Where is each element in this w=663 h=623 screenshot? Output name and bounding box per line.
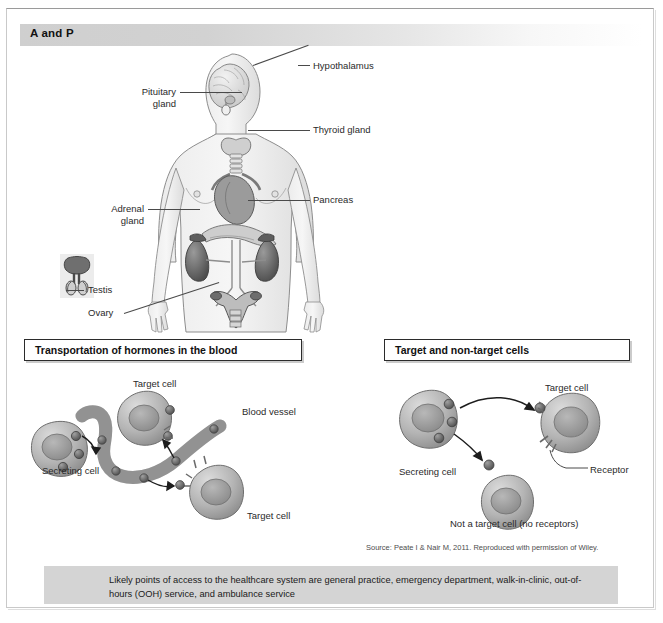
panel-header-target-cells: Target and non-target cells <box>384 339 630 361</box>
label-pituitary-gland-line2: gland <box>96 98 176 110</box>
section-header-bar <box>20 24 642 46</box>
label-target-cell-top: Target cell <box>133 378 176 390</box>
leader-pituitary <box>180 92 242 93</box>
hormone-transport-svg <box>24 368 334 528</box>
page-title: A and P <box>30 27 74 39</box>
target-cell-bottom-shape <box>176 456 244 519</box>
label-thyroid-gland: Thyroid gland <box>313 124 371 136</box>
label-ovary: Ovary <box>88 307 113 319</box>
label-pituitary-gland-line1: Pituitary <box>96 86 176 98</box>
leader-testis <box>66 290 84 291</box>
human-body-diagram <box>150 48 380 333</box>
label-adrenal-gland-line2: gland <box>64 215 144 227</box>
key-points-banner: Likely points of access to the healthcar… <box>44 566 618 604</box>
label-hypothalamus: Hypothalamus <box>313 60 374 72</box>
label-pancreas: Pancreas <box>313 194 353 206</box>
label-non-target-cell: Not a target cell (no receptors) <box>450 518 578 530</box>
label-adrenal-gland-line1: Adrenal <box>64 203 144 215</box>
label-receptor: Receptor <box>590 464 629 476</box>
target-cells-svg <box>392 372 622 532</box>
target-cell-right-shape <box>535 393 600 453</box>
panel-title-transportation: Transportation of hormones in the blood <box>35 344 237 356</box>
leader-adrenal <box>148 209 200 210</box>
target-nontarget-diagram <box>392 372 622 532</box>
page-root: A and P <box>0 0 663 623</box>
label-secreting-cell-left: Secreting cell <box>42 465 99 477</box>
label-secreting-cell-right: Secreting cell <box>399 466 456 478</box>
transportation-diagram <box>24 368 334 528</box>
leader-thyroid <box>248 130 310 131</box>
label-blood-vessel: Blood vessel <box>242 406 296 418</box>
label-testis: Testis <box>88 284 112 296</box>
target-cell-top-shape <box>118 391 175 445</box>
label-target-cell-bottom: Target cell <box>247 510 290 522</box>
source-credit: Source: Peate I & Nair M, 2011. Reproduc… <box>366 543 598 552</box>
leader-hypothalamus-tail <box>298 65 310 66</box>
panel-header-transportation: Transportation of hormones in the blood <box>24 339 302 361</box>
secreting-cell-right-shape <box>400 390 458 448</box>
label-target-cell-right: Target cell <box>545 382 588 394</box>
key-points-text: Likely points of access to the healthcar… <box>109 573 589 601</box>
endocrine-anatomy-figure <box>150 48 380 333</box>
panel-title-target-cells: Target and non-target cells <box>395 344 529 356</box>
leader-pancreas <box>248 200 310 201</box>
